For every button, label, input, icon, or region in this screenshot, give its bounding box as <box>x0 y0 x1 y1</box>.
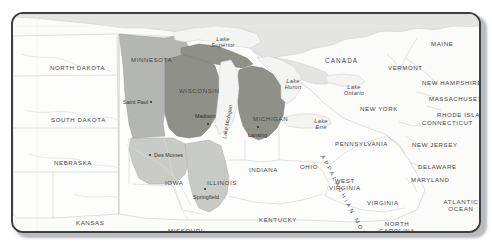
state-label-michigan: MICHIGAN <box>253 116 288 122</box>
state-label-north-dakota: NORTH DAKOTA <box>50 65 105 71</box>
city-label-lansing: Lansing <box>248 133 267 138</box>
lake-label-huron-line2: Huron <box>279 84 307 90</box>
city-label-saint-paul: Saint Paul <box>123 100 148 105</box>
state-label-delaware: DELAWARE <box>418 164 457 170</box>
state-label-ohio: OHIO <box>300 164 318 170</box>
state-label-connecticut: CONNECTICUT <box>422 120 473 126</box>
ocean-label-atlantic: ATLANTIC OCEAN <box>438 198 479 212</box>
lake-label-ontario-line2: Ontario <box>339 90 369 96</box>
state-label-rhode-island: RHODE ISLAND <box>437 112 479 118</box>
state-label-iowa: IOWA <box>165 180 183 186</box>
state-label-nebraska: NEBRASKA <box>54 160 92 166</box>
city-dot-saint-paul <box>150 101 152 103</box>
lake-label-huron: Lake Huron <box>279 78 307 91</box>
lake-label-superior: Lake Superior <box>207 36 239 49</box>
state-label-illinois: ILLINOIS <box>207 180 237 186</box>
lake-label-superior-line2: Superior <box>207 42 239 48</box>
city-label-springfield: Springfield <box>193 195 219 200</box>
city-label-madison: Madison <box>195 114 216 119</box>
state-label-new-york: NEW YORK <box>360 106 398 112</box>
state-label-virginia: VIRGINIA <box>367 200 399 206</box>
country-label-canada: CANADA <box>325 58 358 64</box>
city-dot-lansing <box>257 126 259 128</box>
city-dot-madison <box>207 123 209 125</box>
lake-label-ontario: Lake Ontario <box>339 84 369 97</box>
state-label-north-carolina-line2: CAROLINA <box>379 227 415 231</box>
ocean-label-atlantic-line2: OCEAN <box>438 205 479 212</box>
region-us-default <box>13 34 119 218</box>
state-label-new-hampshire: NEW HAMPSHIRE <box>422 80 479 86</box>
state-label-north-carolina: NORTH CAROLINA <box>379 220 415 231</box>
state-label-kansas: KANSAS <box>76 220 104 226</box>
map-frame[interactable]: NORTH DAKOTA SOUTH DAKOTA NEBRASKA KANSA… <box>11 12 481 233</box>
lake-label-erie: Lake Erie <box>309 118 333 131</box>
state-label-maryland: MARYLAND <box>411 177 450 183</box>
city-dot-springfield <box>204 188 206 190</box>
map-widget[interactable]: NORTH DAKOTA SOUTH DAKOTA NEBRASKA KANSA… <box>0 0 492 249</box>
state-label-new-jersey: NEW JERSEY <box>412 142 458 148</box>
state-label-minnesota: MINNESOTA <box>131 57 172 63</box>
state-label-pennsylvania: PENNSYLVANIA <box>335 141 388 147</box>
map-canvas[interactable]: NORTH DAKOTA SOUTH DAKOTA NEBRASKA KANSA… <box>13 14 479 231</box>
city-label-des-moines: Des Moines <box>154 153 183 158</box>
state-label-massachusetts: MASSACHUSETTS <box>429 96 479 102</box>
state-label-maine: MAINE <box>431 41 453 47</box>
state-label-missouri: MISSOURI <box>168 228 203 231</box>
ocean-label-atlantic-line1: ATLANTIC <box>438 198 479 205</box>
state-label-wisconsin: WISCONSIN <box>179 88 220 94</box>
state-label-south-dakota: SOUTH DAKOTA <box>51 117 106 123</box>
state-label-vermont: VERMONT <box>388 65 423 71</box>
city-dot-des-moines <box>149 154 151 156</box>
state-label-north-carolina-line1: NORTH <box>379 220 415 227</box>
state-label-indiana: INDIANA <box>249 167 278 173</box>
lake-label-erie-line2: Erie <box>309 124 333 130</box>
state-label-kentucky: KENTUCKY <box>259 217 297 223</box>
